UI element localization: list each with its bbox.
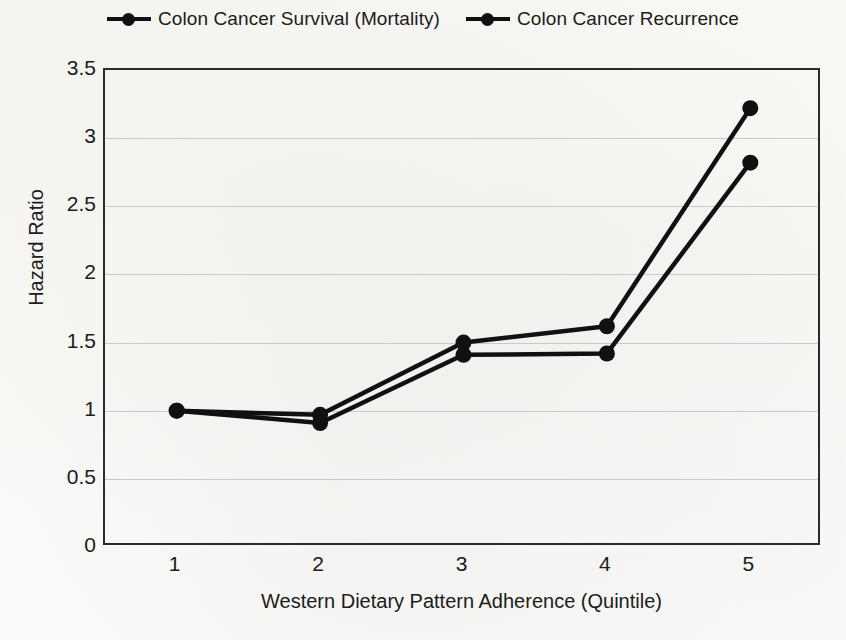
series-line: [177, 108, 751, 415]
y-axis-tick-label: 1: [12, 397, 96, 421]
series-line: [177, 163, 751, 423]
data-point-marker[interactable]: [599, 345, 615, 361]
y-axis-tick-label: 3.5: [12, 56, 96, 80]
legend-item-survival[interactable]: Colon Cancer Survival (Mortality): [107, 8, 440, 30]
series-1: [169, 100, 759, 423]
data-point-marker[interactable]: [169, 403, 185, 419]
data-point-marker[interactable]: [599, 318, 615, 334]
data-point-marker[interactable]: [742, 100, 758, 116]
x-axis-title: Western Dietary Pattern Adherence (Quint…: [103, 590, 820, 613]
legend-label-recurrence: Colon Cancer Recurrence: [517, 8, 739, 30]
plot-area: [103, 68, 820, 545]
legend-item-recurrence[interactable]: Colon Cancer Recurrence: [466, 8, 739, 30]
data-point-marker[interactable]: [742, 155, 758, 171]
x-axis-tick-label: 2: [288, 552, 348, 576]
chart-page: Colon Cancer Survival (Mortality) Colon …: [0, 0, 846, 640]
legend-line-marker-icon: [466, 11, 510, 27]
x-axis-tick-label: 4: [575, 552, 635, 576]
y-axis-tick-label: 0: [12, 533, 96, 557]
y-axis-title: Hazard Ratio: [25, 148, 48, 348]
chart-legend: Colon Cancer Survival (Mortality) Colon …: [0, 8, 846, 30]
series-2: [169, 155, 759, 431]
legend-line-marker-icon: [107, 11, 151, 27]
legend-label-survival: Colon Cancer Survival (Mortality): [158, 8, 440, 30]
y-axis-tick-labels: 00.511.522.533.5: [6, 68, 96, 545]
data-point-marker[interactable]: [456, 347, 472, 363]
y-axis-tick-label: 0.5: [12, 465, 96, 489]
y-axis-tick-label: 3: [12, 124, 96, 148]
x-axis-tick-labels: 12345: [103, 552, 820, 582]
x-axis-tick-label: 3: [432, 552, 492, 576]
x-axis-tick-label: 1: [145, 552, 205, 576]
series-plot: [105, 70, 822, 547]
x-axis-tick-label: 5: [718, 552, 778, 576]
data-point-marker[interactable]: [312, 415, 328, 431]
